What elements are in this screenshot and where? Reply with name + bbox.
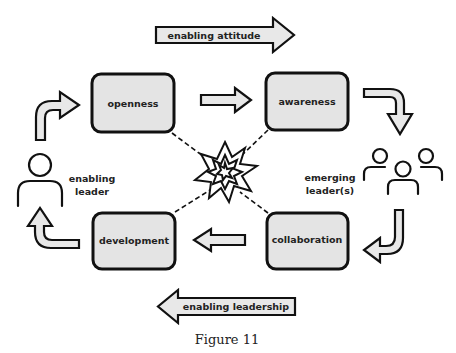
curved-left-arrow-icon: [364, 210, 403, 262]
curved-right-arrow-icon: [36, 92, 79, 140]
box-collaboration: collaboration: [267, 213, 348, 269]
leadership-cycle-diagram: enabling attitude openness awareness dev…: [0, 0, 456, 353]
enabling-leader-label-1: enabling: [69, 173, 116, 184]
openness-label: openness: [107, 98, 158, 109]
enabling-leadership-arrow: enabling leadership: [158, 290, 295, 323]
collaboration-label: collaboration: [272, 234, 343, 245]
curved-down-arrow-icon: [364, 89, 412, 134]
emerging-leaders-label-1: emerging: [304, 172, 355, 183]
awareness-label: awareness: [278, 96, 336, 107]
curved-up-arrow-icon: [28, 208, 79, 248]
box-openness: openness: [92, 74, 174, 132]
enabling-attitude-label: enabling attitude: [167, 30, 260, 41]
right-arrow-icon: [201, 88, 251, 112]
box-awareness: awareness: [266, 73, 348, 130]
left-arrow-icon: [194, 229, 245, 251]
enabling-leadership-label: enabling leadership: [183, 301, 290, 312]
enabling-attitude-arrow: enabling attitude: [156, 18, 294, 52]
figure-caption: Figure 11: [195, 332, 259, 347]
emerging-leaders-group-icon: [364, 149, 442, 194]
emerging-leaders-label-2: leader(s): [306, 185, 354, 196]
box-development: development: [93, 213, 175, 269]
dash-development-center: [175, 190, 210, 212]
development-label: development: [99, 235, 170, 246]
enabling-leader-person-icon: [18, 154, 62, 206]
enabling-leader-label-2: leader: [75, 186, 109, 197]
dash-collaboration-center: [240, 192, 268, 213]
